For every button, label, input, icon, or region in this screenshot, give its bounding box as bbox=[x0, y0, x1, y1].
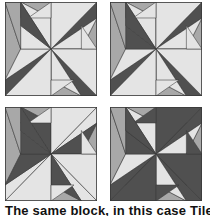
quilt-block-4 bbox=[110, 107, 202, 201]
quilt-block-3-svg bbox=[5, 107, 97, 201]
quilt-block-1 bbox=[5, 2, 97, 96]
figure-caption: The same block, in this case Tile bbox=[5, 203, 210, 216]
quilt-block-2 bbox=[110, 2, 202, 96]
quilt-block-2-svg bbox=[110, 2, 202, 96]
quilt-block-4-svg bbox=[110, 107, 202, 201]
quilt-block-1-svg bbox=[5, 2, 97, 96]
quilt-block-3 bbox=[5, 107, 97, 201]
